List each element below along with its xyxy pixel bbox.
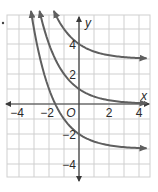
axes <box>6 17 149 181</box>
curve-3 <box>31 11 147 148</box>
origin-label: O <box>66 106 75 120</box>
x-axis-label: x <box>140 89 148 103</box>
curves <box>31 11 147 148</box>
x-tick-label: 4 <box>136 106 143 120</box>
y-tick-label: −4 <box>62 158 76 172</box>
y-tick-label: 4 <box>69 38 76 52</box>
x-tick-label: −4 <box>10 106 24 120</box>
x-tick-label: 2 <box>106 106 113 120</box>
curve-1 <box>54 11 147 58</box>
y-tick-label: 2 <box>69 68 76 82</box>
exponential-graph: −4−22442−2−4Oxy <box>0 0 158 192</box>
y-axis-label: y <box>84 16 92 30</box>
y-tick-label: −2 <box>62 128 76 142</box>
bullet-marker <box>2 22 4 24</box>
x-tick-label: −2 <box>40 106 54 120</box>
